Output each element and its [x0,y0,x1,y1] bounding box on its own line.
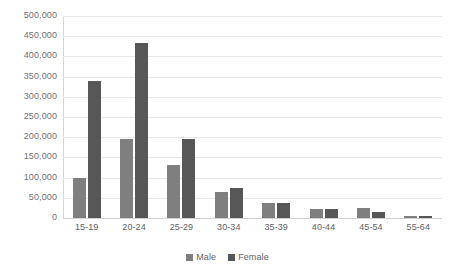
bar-male [310,209,323,218]
bar-male [73,178,86,218]
bar-male [404,216,417,218]
bar-female [182,139,195,218]
bar-female [230,188,243,218]
x-axis-tick-label: 55-64 [395,222,442,232]
bar-group [347,16,394,218]
y-axis-tick-label: 0 [0,212,57,222]
y-axis-tick-labels: 500,000450,000400,000350,000300,000250,0… [0,0,57,275]
y-axis-tick-label: 450,000 [0,30,57,40]
y-axis-tick-label: 350,000 [0,71,57,81]
y-axis-tick-label: 150,000 [0,151,57,161]
bar-female [372,212,385,218]
bar-group [205,16,252,218]
y-axis-tick-label: 250,000 [0,111,57,121]
bar-group [63,16,110,218]
x-axis-tick-label: 35-39 [253,222,300,232]
bar-male [120,139,133,218]
bar-male [262,203,275,218]
bar-male [357,208,370,218]
x-axis-baseline [63,218,442,219]
x-axis-tick-label: 15-19 [63,222,110,232]
bar-group [110,16,157,218]
bar-female [419,216,432,218]
legend-label: Female [238,252,269,262]
bar-group [395,16,442,218]
legend-item-female[interactable]: Female [228,252,269,262]
bar-female [135,43,148,218]
chart-legend: MaleFemale [0,252,455,262]
bar-group [158,16,205,218]
legend-swatch-icon [228,254,235,261]
bar-female [88,81,101,218]
bar-group [300,16,347,218]
y-axis-tick-label: 200,000 [0,131,57,141]
x-axis-tick-label: 30-34 [205,222,252,232]
legend-label: Male [196,252,216,262]
x-axis-tick-label: 40-44 [300,222,347,232]
y-axis-tick-label: 50,000 [0,192,57,202]
bar-female [277,203,290,218]
x-axis-tick-labels: 15-1920-2425-2930-3435-3940-4445-5455-64 [63,222,442,232]
legend-item-male[interactable]: Male [186,252,216,262]
legend-swatch-icon [186,254,193,261]
x-axis-tick-label: 25-29 [158,222,205,232]
y-axis-tick-label: 100,000 [0,172,57,182]
y-axis-tick-label: 300,000 [0,91,57,101]
bar-male [215,192,228,218]
bar-chart: 500,000450,000400,000350,000300,000250,0… [0,0,455,275]
bar-female [325,209,338,218]
bar-male [167,165,180,218]
x-axis-tick-label: 45-54 [347,222,394,232]
y-axis-tick-label: 400,000 [0,50,57,60]
x-axis-tick-label: 20-24 [110,222,157,232]
bar-group [253,16,300,218]
y-axis-tick-label: 500,000 [0,10,57,20]
bar-groups [63,16,442,218]
